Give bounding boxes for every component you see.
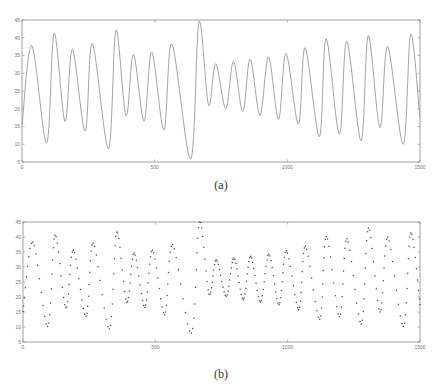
data-point	[400, 315, 402, 317]
data-point	[277, 302, 279, 304]
data-point	[152, 249, 154, 251]
data-point	[226, 294, 228, 296]
data-point	[416, 268, 418, 270]
data-point	[57, 242, 59, 244]
data-point	[345, 240, 347, 242]
data-point	[207, 289, 209, 291]
data-point	[74, 252, 76, 254]
data-point	[214, 264, 216, 266]
data-point	[156, 267, 158, 269]
data-point	[150, 256, 152, 258]
data-point	[419, 304, 421, 306]
y-tick-label: 15	[14, 123, 20, 129]
data-point	[279, 302, 281, 304]
data-point	[129, 282, 131, 284]
data-point	[94, 246, 96, 248]
data-point	[385, 245, 387, 247]
data-point	[306, 249, 308, 251]
data-point	[120, 258, 122, 260]
data-point	[114, 258, 116, 260]
data-point	[363, 298, 365, 300]
data-point	[245, 287, 247, 289]
data-point	[52, 259, 54, 261]
data-point	[153, 252, 155, 254]
data-point	[307, 256, 309, 258]
data-point	[73, 249, 75, 251]
data-point	[145, 304, 147, 306]
data-point	[344, 247, 346, 249]
data-point	[322, 283, 324, 285]
data-point	[203, 247, 205, 249]
y-tick-label: 15	[15, 309, 21, 315]
data-point	[276, 298, 278, 300]
data-point	[373, 261, 375, 263]
data-point	[297, 307, 299, 309]
data-point	[222, 286, 224, 288]
data-point	[383, 267, 385, 269]
data-point	[316, 310, 318, 312]
data-point	[383, 280, 385, 282]
data-point	[220, 275, 222, 277]
data-point	[365, 268, 367, 270]
data-point	[304, 247, 306, 249]
data-point	[212, 275, 214, 277]
data-point	[390, 249, 392, 251]
data-point	[194, 303, 196, 305]
data-point	[239, 288, 241, 290]
data-point	[123, 281, 125, 283]
data-point	[193, 317, 195, 319]
data-point	[379, 311, 381, 313]
x-tick-label: 1000	[282, 164, 293, 170]
data-point	[84, 314, 86, 316]
data-point	[85, 315, 87, 317]
y-tick-label: 30	[14, 70, 20, 76]
data-point	[41, 292, 43, 294]
data-point	[168, 261, 170, 263]
data-point	[114, 245, 116, 247]
data-point	[213, 269, 215, 271]
data-point	[263, 289, 265, 291]
data-point	[182, 298, 184, 300]
data-point	[195, 287, 197, 289]
data-point	[147, 282, 149, 284]
data-point	[394, 275, 396, 277]
caption-b: (b)	[214, 367, 228, 381]
data-point	[111, 316, 113, 318]
data-point	[352, 275, 354, 277]
data-point	[412, 239, 414, 241]
data-point	[50, 288, 52, 290]
data-point	[137, 267, 139, 269]
data-point	[371, 248, 373, 250]
data-point	[325, 239, 327, 241]
data-point	[335, 295, 337, 297]
data-point	[209, 294, 211, 296]
data-point	[281, 281, 283, 283]
data-point	[211, 287, 213, 289]
data-point	[53, 247, 55, 249]
data-point	[22, 311, 24, 313]
data-point	[71, 257, 73, 259]
data-point	[336, 306, 338, 308]
data-point	[55, 236, 57, 238]
data-point	[247, 273, 249, 275]
data-point	[406, 288, 408, 290]
data-point	[169, 252, 171, 254]
data-point	[381, 302, 383, 304]
data-point	[380, 309, 382, 311]
caption-a: (a)	[214, 178, 227, 192]
chart-a: 51015202530354045 050010001500 (a)	[14, 17, 425, 192]
data-point	[364, 283, 366, 285]
data-point	[342, 283, 344, 285]
series-dots-b	[22, 221, 421, 334]
data-point	[298, 309, 300, 311]
x-tick-label: 0	[22, 344, 25, 350]
data-point	[376, 288, 378, 290]
y-tick-label: 20	[14, 106, 20, 112]
data-point	[231, 262, 233, 264]
data-point	[378, 308, 380, 310]
data-point	[370, 237, 372, 239]
data-point	[354, 289, 356, 291]
data-point	[215, 260, 217, 262]
figure: 51015202530354045 050010001500 (a) 51015…	[0, 0, 438, 388]
data-point	[356, 302, 358, 304]
